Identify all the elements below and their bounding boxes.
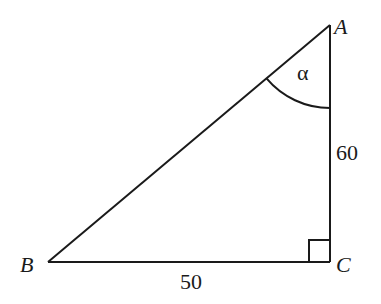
side-label-ac: 60 bbox=[336, 140, 358, 165]
triangle bbox=[48, 25, 330, 262]
vertex-label-b: B bbox=[20, 252, 33, 277]
side-ab-hypotenuse bbox=[48, 25, 330, 262]
vertex-label-c: C bbox=[336, 252, 351, 277]
side-label-bc: 50 bbox=[180, 269, 202, 294]
right-angle-marker bbox=[309, 240, 330, 262]
triangle-diagram: A B C 60 50 α bbox=[0, 0, 381, 304]
vertex-label-a: A bbox=[332, 14, 348, 39]
angle-label-alpha: α bbox=[297, 60, 309, 85]
